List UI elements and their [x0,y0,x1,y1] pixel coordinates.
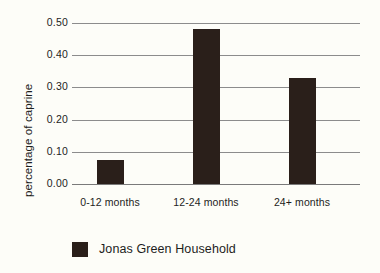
y-tick-label: 0.10 [28,145,68,157]
chart-legend: Jonas Green Household [72,240,236,258]
bar [97,160,124,184]
bar-chart-figure: percentage of caprine 0.500.400.300.200.… [0,0,380,273]
y-tick-label: 0.40 [28,48,68,60]
legend-swatch-jonas-green-household [72,242,88,257]
bar [193,29,220,184]
x-axis-tick-labels: 0-12 months12-24 months24+ months [72,196,360,214]
legend-label-jonas-green-household: Jonas Green Household [99,242,236,256]
gridline [72,23,360,24]
y-axis-tick-labels: 0.500.400.300.200.100.00 [26,0,68,273]
y-tick-label: 0.20 [28,113,68,125]
x-tick-label: 0-12 months [80,196,139,208]
axis-baseline [72,184,360,185]
y-tick-label: 0.00 [28,177,68,189]
bar [289,78,316,184]
plot-area [72,23,360,184]
y-tick-label: 0.30 [28,80,68,92]
x-tick-label: 12-24 months [173,196,238,208]
x-tick-label: 24+ months [274,196,330,208]
y-tick-label: 0.50 [28,16,68,28]
